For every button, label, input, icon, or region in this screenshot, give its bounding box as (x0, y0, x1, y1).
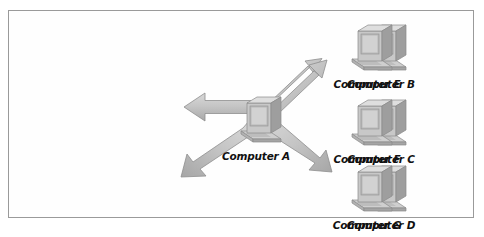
node-label: Computer E (319, 78, 415, 90)
desktop-computer-icon (319, 23, 415, 77)
node-label: Computer G (319, 219, 415, 231)
screenshot-canvas: Computer B (0, 0, 484, 237)
node-computer-g[interactable]: Computer G (319, 164, 415, 231)
node-computer-a[interactable]: Computer A (208, 95, 304, 162)
node-computer-e-visible[interactable]: Computer E (319, 23, 415, 90)
diagram-frame: Computer B (8, 10, 474, 218)
node-computer-f[interactable]: Computer F (319, 98, 415, 165)
node-label: Computer A (208, 150, 304, 162)
desktop-computer-icon (319, 164, 415, 218)
diagram-layer: Computer B (9, 11, 475, 219)
desktop-computer-icon (208, 95, 304, 149)
desktop-computer-icon (319, 98, 415, 152)
